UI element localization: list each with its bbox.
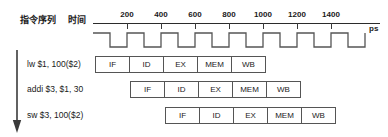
pipeline-row-2: IFIDEXMEMWB xyxy=(165,107,336,124)
stage-cell-ex: EX xyxy=(233,107,268,124)
axis-tick-label-600: 600 xyxy=(188,10,201,19)
stage-cell-if: IF xyxy=(130,81,165,98)
instruction-label-1: addi $3, $1, 30 xyxy=(27,84,83,94)
instruction-label-2: sw $3, 100($2) xyxy=(27,110,83,120)
pipeline-row-1: IFIDEXMEMWB xyxy=(130,81,301,98)
time-axis-line xyxy=(93,23,380,24)
axis-tick-label-200: 200 xyxy=(120,10,133,19)
axis-tick-1000 xyxy=(263,23,264,29)
axis-tick-600 xyxy=(195,23,196,29)
axis-tick-label-1400: 1400 xyxy=(322,10,340,19)
stage-cell-id: ID xyxy=(199,107,234,124)
instruction-label-0: lw $1, 100($2) xyxy=(27,59,81,69)
clock-signal-path xyxy=(93,30,380,52)
stage-cell-ex: EX xyxy=(198,81,233,98)
axis-tick-label-1200: 1200 xyxy=(288,10,306,19)
stage-cell-wb: WB xyxy=(301,107,336,124)
sequence-axis-label: 指令序列 xyxy=(20,13,56,26)
stage-cell-id: ID xyxy=(129,56,164,73)
stage-cell-wb: WB xyxy=(266,81,301,98)
axis-tick-label-1000: 1000 xyxy=(254,10,272,19)
instruction-sequence-arrow xyxy=(11,50,25,134)
down-arrow-icon xyxy=(11,50,25,134)
time-axis-label: 时间 xyxy=(68,13,86,26)
pipeline-timing-diagram: 指令序列 时间 200400600800100012001400 ps lw $… xyxy=(0,0,388,137)
stage-cell-if: IF xyxy=(165,107,200,124)
stage-cell-mem: MEM xyxy=(267,107,302,124)
axis-tick-400 xyxy=(161,23,162,29)
axis-tick-1400 xyxy=(331,23,332,29)
clock-waveform xyxy=(93,30,380,52)
stage-cell-ex: EX xyxy=(163,56,198,73)
stage-cell-wb: WB xyxy=(231,56,266,73)
stage-cell-id: ID xyxy=(164,81,199,98)
axis-tick-label-400: 400 xyxy=(154,10,167,19)
stage-cell-mem: MEM xyxy=(232,81,267,98)
stage-cell-if: IF xyxy=(95,56,130,73)
axis-tick-200 xyxy=(127,23,128,29)
pipeline-row-0: IFIDEXMEMWB xyxy=(95,56,266,73)
axis-tick-label-800: 800 xyxy=(222,10,235,19)
axis-tick-1200 xyxy=(297,23,298,29)
axis-tick-800 xyxy=(229,23,230,29)
stage-cell-mem: MEM xyxy=(197,56,232,73)
